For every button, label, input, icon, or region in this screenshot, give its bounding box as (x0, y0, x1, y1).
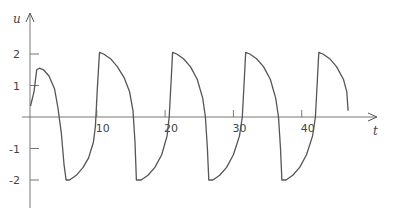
y-tick-label: -1 (9, 143, 20, 156)
y-tick-label: 1 (13, 80, 20, 93)
y-tick-label: 2 (13, 48, 20, 61)
y-axis-label: u (13, 12, 21, 26)
chart-canvas: u t 1020304021-1-2 (0, 0, 394, 223)
x-tick-label: 20 (164, 122, 178, 135)
x-tick-label: 10 (96, 122, 110, 135)
data-series-u (31, 52, 349, 180)
x-axis-label: t (373, 124, 378, 138)
axes: u t (13, 12, 378, 208)
y-tick-label: -2 (9, 174, 20, 187)
